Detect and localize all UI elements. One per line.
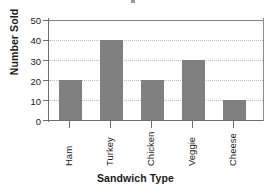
- cropped-title-artifact: [131, 0, 135, 3]
- y-tick-label-10: 10: [16, 97, 41, 107]
- y-tick-label-40: 40: [16, 36, 41, 46]
- x-tick-mark-2: [110, 121, 111, 128]
- y-tick-label-30: 30: [16, 57, 41, 67]
- bar-cheese: [223, 100, 246, 120]
- x-tick-mark-3: [151, 121, 152, 128]
- x-tick-mark-5: [233, 121, 234, 128]
- x-tick-mark-1: [69, 121, 70, 128]
- x-tick-mark-4: [192, 121, 193, 128]
- plot-area: [48, 20, 263, 120]
- bar-ham: [59, 80, 82, 120]
- bar-chart: Number Sold 50 40 30 20 10 0 Ham Turkey …: [0, 0, 271, 189]
- x-tick-label-cheese: Cheese: [228, 133, 238, 166]
- bar-veggie: [182, 60, 205, 120]
- x-tick-label-veggie: Veggie: [187, 137, 197, 166]
- bar-chicken: [141, 80, 164, 120]
- x-tick-label-chicken: Chicken: [146, 132, 156, 166]
- x-axis-line: [48, 120, 264, 121]
- y-tick-label-0: 0: [16, 117, 41, 127]
- y-tick-label-20: 20: [16, 77, 41, 87]
- x-axis-title: Sandwich Type: [0, 172, 271, 184]
- y-tick-label-50: 50: [16, 16, 41, 26]
- bar-turkey: [100, 40, 123, 120]
- x-tick-label-ham: Ham: [64, 146, 74, 166]
- plot-right-border: [263, 18, 264, 121]
- x-tick-label-turkey: Turkey: [105, 137, 115, 166]
